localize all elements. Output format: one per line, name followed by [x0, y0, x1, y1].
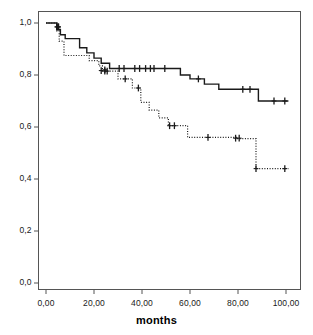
- kaplan-meier-chart: 0,00,20,40,60,81,0 0,0020,0040,0060,0080…: [0, 0, 313, 335]
- y-tick-label: 0,2: [19, 225, 31, 235]
- series-lines: [46, 23, 288, 169]
- censor-marks: [55, 24, 288, 173]
- y-tick-label: 0,4: [19, 173, 31, 183]
- y-tick-label: 1,0: [19, 17, 31, 27]
- y-tick-label: 0,6: [19, 121, 31, 131]
- axis-ticks: [34, 23, 286, 294]
- plot-area: [0, 0, 313, 335]
- y-tick-label: 0,0: [19, 277, 31, 287]
- x-tick-label: 100,00: [256, 298, 313, 308]
- y-tick-label: 0,8: [19, 69, 31, 79]
- x-axis-title: months: [0, 314, 313, 326]
- plot-frame: [39, 12, 301, 290]
